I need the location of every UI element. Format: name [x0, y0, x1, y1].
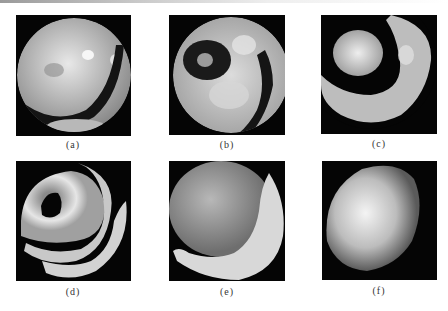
fringe-image-d — [16, 161, 131, 281]
panel-b-label: (b) — [187, 139, 267, 150]
panel-f-label: (f) — [339, 285, 419, 296]
fringe-image-b — [169, 15, 285, 135]
panel-a-label: (a) — [33, 139, 113, 150]
fringe-image-f — [322, 161, 437, 280]
panel-f-image — [322, 161, 437, 280]
panel-e-label: (e) — [187, 286, 267, 297]
panel-b-image — [169, 15, 285, 135]
scan-artifact-strip — [0, 0, 448, 3]
fringe-image-e — [169, 161, 285, 281]
panel-c-label: (c) — [339, 138, 419, 149]
panel-c-image — [321, 15, 437, 134]
panel-d-image — [16, 161, 131, 281]
panel-d-label: (d) — [33, 286, 113, 297]
fringe-image-a — [16, 15, 131, 136]
panel-a-image — [16, 15, 131, 136]
panel-e-image — [169, 161, 285, 281]
fringe-image-c — [321, 15, 437, 134]
